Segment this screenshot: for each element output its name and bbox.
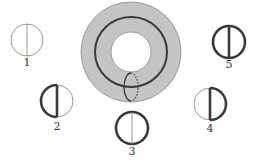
left-arc — [194, 88, 210, 120]
circle-symbol-4: 4 — [194, 88, 226, 135]
circle-symbol-2: 2 — [41, 85, 73, 133]
circle-symbol-5: 5 — [213, 26, 245, 71]
right-arc — [132, 112, 148, 144]
symbol-label: 1 — [24, 56, 31, 69]
symbol-label: 4 — [207, 122, 214, 135]
right-arc — [57, 85, 73, 117]
circle-symbol-1: 1 — [11, 24, 43, 69]
left-arc — [41, 85, 57, 117]
symbol-label: 2 — [54, 120, 61, 133]
left-arc — [213, 26, 229, 58]
right-arc — [229, 26, 245, 58]
right-arc — [210, 88, 226, 120]
symbol-label: 5 — [226, 58, 233, 71]
left-arc — [116, 112, 132, 144]
circle-symbol-3: 3 — [116, 112, 148, 158]
right-arc — [27, 24, 43, 56]
torus-cycle-diagram: 12345 — [0, 0, 256, 164]
torus — [81, 2, 181, 102]
symbol-label: 3 — [129, 145, 136, 158]
left-arc — [11, 24, 27, 56]
